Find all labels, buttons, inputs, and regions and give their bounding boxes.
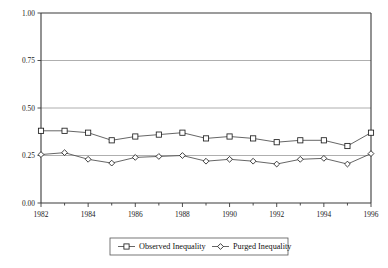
chart-background [0,0,388,268]
legend-label-0: Observed Inequality [139,242,207,251]
x-tick-label-2: 1986 [128,210,143,219]
data-point-0-9 [251,136,256,141]
data-point-0-1 [62,128,67,133]
data-point-0-6 [180,130,185,135]
chart-legend: Observed InequalityPurged Inequality [110,238,292,255]
x-tick-label-4: 1990 [222,210,237,219]
data-point-0-2 [86,130,91,135]
line-chart-figure: 0.000.250.500.751.00 1982198419861988199… [0,0,388,268]
data-point-0-13 [345,143,350,148]
x-tick-label-6: 1994 [316,210,331,219]
x-tick-label-5: 1992 [269,210,284,219]
data-point-0-11 [298,138,303,143]
chart-canvas: 0.000.250.500.751.00 1982198419861988199… [0,0,388,268]
y-tick-label-2: 0.50 [22,104,35,113]
y-tick-label-3: 0.75 [22,56,35,65]
data-point-0-7 [203,136,208,141]
legend-label-1: Purged Inequality [233,242,292,251]
y-tick-label-0: 0.00 [22,199,35,208]
data-point-0-0 [38,128,43,133]
y-tick-label-1: 0.25 [22,151,35,160]
data-point-0-5 [156,132,161,137]
data-point-0-3 [109,138,114,143]
x-tick-label-3: 1988 [175,210,190,219]
data-point-0-8 [227,134,232,139]
square-marker-icon [124,244,129,249]
data-point-0-14 [368,130,373,135]
y-tick-label-4: 1.00 [22,9,35,18]
data-point-0-12 [321,138,326,143]
data-point-0-10 [274,140,279,145]
x-tick-label-1: 1984 [81,210,96,219]
data-point-0-4 [133,134,138,139]
x-tick-label-7: 1996 [364,210,379,219]
x-tick-label-0: 1982 [34,210,49,219]
